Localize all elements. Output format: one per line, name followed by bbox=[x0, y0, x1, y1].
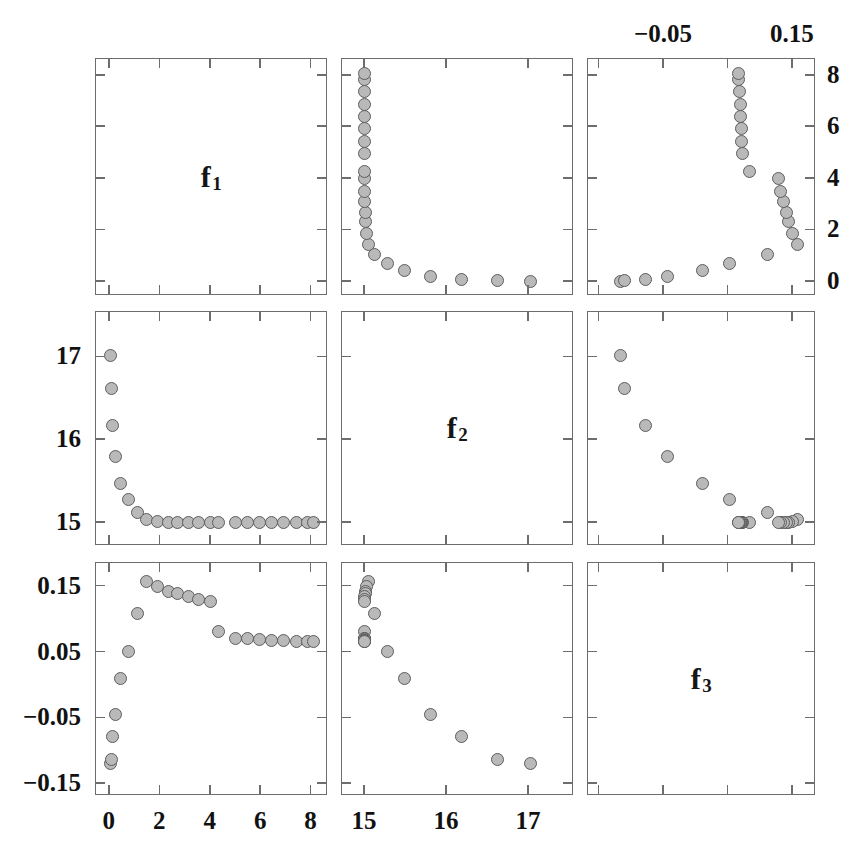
tick-x-bottom bbox=[363, 785, 365, 795]
tick-x-top bbox=[445, 58, 447, 68]
tick-x-top bbox=[527, 562, 529, 572]
data-point bbox=[358, 85, 371, 98]
data-point bbox=[736, 147, 749, 160]
data-point bbox=[358, 135, 371, 148]
tick-y-left bbox=[341, 438, 351, 440]
data-point bbox=[277, 634, 290, 647]
data-point bbox=[114, 477, 127, 490]
x-tick-label-f2: 16 bbox=[433, 807, 458, 835]
tick-x-bottom bbox=[727, 285, 729, 295]
tick-x-top bbox=[727, 562, 729, 572]
tick-x-bottom bbox=[310, 285, 312, 295]
tick-y-left bbox=[95, 356, 105, 358]
tick-y-right bbox=[563, 74, 573, 76]
tick-y-right bbox=[317, 74, 327, 76]
tick-x-top bbox=[159, 58, 161, 68]
diagonal-label-base: f bbox=[201, 160, 212, 194]
data-point bbox=[639, 273, 652, 286]
tick-x-bottom bbox=[445, 535, 447, 545]
data-point bbox=[360, 227, 373, 240]
data-point bbox=[696, 477, 709, 490]
data-point bbox=[524, 275, 537, 288]
tick-y-left bbox=[587, 438, 597, 440]
panel-f2-vs-f1 bbox=[95, 311, 327, 545]
tick-y-right bbox=[563, 717, 573, 719]
diagonal-label-subscript: 2 bbox=[458, 424, 468, 446]
tick-x-bottom bbox=[727, 535, 729, 545]
data-point bbox=[358, 165, 371, 178]
data-point bbox=[192, 516, 205, 529]
tick-x-bottom bbox=[363, 535, 365, 545]
tick-x-bottom bbox=[159, 285, 161, 295]
y-tick-label-f2: 15 bbox=[56, 508, 81, 536]
data-point bbox=[105, 382, 118, 395]
data-point bbox=[661, 450, 674, 463]
tick-x-bottom bbox=[727, 785, 729, 795]
tick-y-right bbox=[317, 782, 327, 784]
tick-y-right bbox=[805, 521, 815, 523]
tick-x-top bbox=[363, 58, 365, 68]
data-point bbox=[761, 248, 774, 261]
data-point bbox=[618, 274, 631, 287]
panel-f1-vs-f3 bbox=[587, 58, 815, 295]
panel-f2-vs-f2: f2 bbox=[341, 311, 573, 545]
diagonal-label-f3: f3 bbox=[588, 563, 814, 794]
tick-y-left bbox=[341, 521, 351, 523]
tick-y-right bbox=[805, 438, 815, 440]
x-tick-label-f1: 0 bbox=[103, 807, 116, 835]
tick-y-right bbox=[563, 125, 573, 127]
data-point bbox=[241, 632, 254, 645]
tick-y-right bbox=[563, 651, 573, 653]
x-tick-label-f1: 2 bbox=[153, 807, 166, 835]
tick-y-right bbox=[317, 521, 327, 523]
tick-y-right bbox=[317, 438, 327, 440]
diagonal-label-base: f bbox=[691, 662, 702, 696]
tick-x-top bbox=[363, 311, 365, 321]
data-point bbox=[733, 85, 746, 98]
tick-x-top bbox=[108, 562, 110, 572]
tick-y-left bbox=[95, 521, 105, 523]
tick-y-left bbox=[341, 782, 351, 784]
data-point bbox=[723, 493, 736, 506]
y-tick-label-f3: 0.05 bbox=[37, 638, 81, 666]
data-point bbox=[455, 730, 468, 743]
data-point bbox=[743, 165, 756, 178]
tick-y-left bbox=[341, 125, 351, 127]
tick-x-top bbox=[259, 311, 261, 321]
tick-x-bottom bbox=[527, 535, 529, 545]
data-point bbox=[106, 419, 119, 432]
data-point bbox=[398, 264, 411, 277]
tick-y-left bbox=[341, 74, 351, 76]
y-tick-label-f3: −0.15 bbox=[23, 769, 81, 797]
data-point bbox=[524, 757, 537, 770]
tick-y-right bbox=[317, 717, 327, 719]
tick-y-right bbox=[563, 356, 573, 358]
tick-x-bottom bbox=[310, 785, 312, 795]
tick-y-right bbox=[805, 177, 815, 179]
tick-x-top bbox=[791, 562, 793, 572]
x-tick-label-top-f3: 0.15 bbox=[770, 20, 814, 48]
data-point bbox=[265, 634, 278, 647]
tick-y-left bbox=[95, 717, 105, 719]
tick-y-right bbox=[563, 585, 573, 587]
tick-y-left bbox=[95, 782, 105, 784]
data-point bbox=[358, 110, 371, 123]
plot-area bbox=[342, 563, 572, 794]
plot-area bbox=[588, 312, 814, 544]
tick-y-left bbox=[95, 74, 105, 76]
tick-y-right bbox=[317, 585, 327, 587]
plot-area bbox=[96, 312, 326, 544]
tick-x-bottom bbox=[209, 785, 211, 795]
tick-x-top bbox=[598, 58, 600, 68]
data-point bbox=[774, 185, 787, 198]
data-point bbox=[735, 135, 748, 148]
data-point bbox=[358, 147, 371, 160]
tick-x-bottom bbox=[598, 285, 600, 295]
data-point bbox=[661, 270, 674, 283]
tick-x-bottom bbox=[108, 285, 110, 295]
tick-x-top bbox=[259, 58, 261, 68]
data-point bbox=[491, 274, 504, 287]
tick-x-top bbox=[598, 311, 600, 321]
tick-y-right bbox=[805, 782, 815, 784]
tick-y-right bbox=[805, 356, 815, 358]
